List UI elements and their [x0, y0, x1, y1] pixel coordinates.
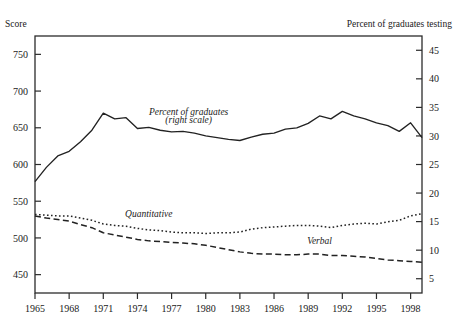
right-tick-label: 45: [429, 45, 439, 56]
x-tick-label: 1992: [332, 303, 352, 314]
right-tick-label: 40: [429, 73, 439, 84]
left-tick-label: 500: [13, 233, 28, 244]
x-tick-label: 1986: [264, 303, 284, 314]
annotation-quantitative: Quantitative: [125, 209, 173, 219]
right-tick-label: 10: [429, 245, 439, 256]
x-tick-label: 1989: [298, 303, 318, 314]
frame-rect: [35, 36, 422, 293]
x-tick-label: 1965: [25, 303, 45, 314]
x-tick-label: 1998: [401, 303, 421, 314]
x-tick-label: 1971: [93, 303, 113, 314]
plot-area: 450500550600650700750 51015202530354045 …: [0, 0, 456, 328]
left-tick-label: 650: [13, 122, 28, 133]
right-tick-label: 20: [429, 188, 439, 199]
plot-frame: [35, 36, 422, 293]
series-lines: [35, 111, 422, 262]
x-axis-ticks: 1965196819711974197719801983198619891992…: [25, 293, 421, 314]
right-axis-ticks: 51015202530354045: [416, 45, 439, 284]
x-tick-label: 1980: [196, 303, 216, 314]
x-tick-label: 1968: [59, 303, 79, 314]
right-tick-label: 15: [429, 216, 439, 227]
x-tick-label: 1995: [366, 303, 386, 314]
right-tick-label: 5: [429, 273, 434, 284]
annotation--right-scale-: (right scale): [165, 115, 212, 126]
x-tick-label: 1974: [127, 303, 147, 314]
x-tick-label: 1983: [230, 303, 250, 314]
series-line-percent-of-graduates: [35, 111, 422, 181]
annotation-verbal: Verbal: [307, 236, 332, 246]
left-tick-label: 750: [13, 49, 28, 60]
right-tick-label: 35: [429, 102, 439, 113]
left-tick-label: 700: [13, 86, 28, 97]
series-line-quantitative: [35, 214, 422, 234]
left-tick-label: 600: [13, 159, 28, 170]
left-tick-label: 550: [13, 196, 28, 207]
right-tick-label: 25: [429, 159, 439, 170]
left-axis-ticks: 450500550600650700750: [13, 49, 41, 280]
figure-chart-sat-scores: Score Percent of graduates testing 45050…: [0, 0, 456, 328]
left-tick-label: 450: [13, 269, 28, 280]
series-line-verbal: [35, 216, 422, 262]
right-tick-label: 30: [429, 131, 439, 142]
x-tick-label: 1977: [162, 303, 182, 314]
